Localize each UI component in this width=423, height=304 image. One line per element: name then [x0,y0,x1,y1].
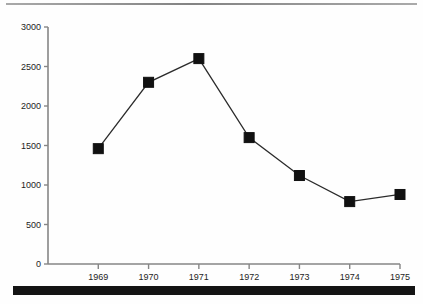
x-tick-label: 1972 [239,272,259,282]
data-point-marker [345,197,355,207]
data-point-marker [93,144,103,154]
x-tick-label: 1969 [88,272,108,282]
chart-plot-area: 050010001500200025003000 196919701971197… [0,0,423,285]
y-tick-label: 1000 [21,180,41,190]
y-tick-label: 3000 [21,22,41,32]
data-point-marker [244,133,254,143]
line-chart: 050010001500200025003000 196919701971197… [0,0,423,285]
y-tick-label: 0 [36,259,41,269]
data-point-marker [395,189,405,199]
y-axis: 050010001500200025003000 [21,22,48,269]
x-tick-label: 1973 [289,272,309,282]
data-point-marker [294,171,304,181]
x-axis: 1969197019711972197319741975 [48,264,410,282]
data-markers [93,54,405,207]
scanned-page: 050010001500200025003000 196919701971197… [0,0,423,304]
y-tick-label: 2500 [21,62,41,72]
x-tick-label: 1974 [340,272,360,282]
page-bottom-bar [13,286,415,295]
x-tick-label: 1971 [189,272,209,282]
x-tick-label: 1975 [390,272,410,282]
x-tick-label: 1970 [139,272,159,282]
y-tick-label: 1500 [21,141,41,151]
y-tick-label: 500 [26,220,41,230]
data-point-marker [194,54,204,64]
y-tick-label: 2000 [21,101,41,111]
data-point-marker [144,77,154,87]
